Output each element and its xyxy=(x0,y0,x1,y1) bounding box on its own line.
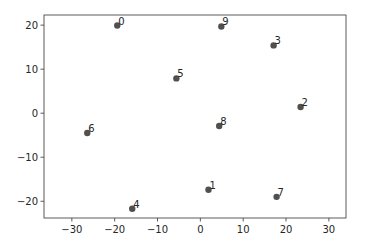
axes-frame xyxy=(44,15,346,218)
point-label: 6 xyxy=(88,123,94,134)
point-label: 3 xyxy=(275,35,281,46)
y-tick-label: −10 xyxy=(17,152,38,163)
point-label: 9 xyxy=(222,16,228,27)
point-label: 5 xyxy=(177,68,183,79)
plot-area xyxy=(44,15,346,218)
x-tick-label: 30 xyxy=(322,224,335,235)
scatter-chart: −30−20−100102030 −20−1001020 0123456789 xyxy=(0,0,366,249)
x-tick-label: −20 xyxy=(104,224,125,235)
x-tick-label: 20 xyxy=(280,224,293,235)
y-axis: −20−1001020 xyxy=(17,20,44,207)
x-tick-label: −10 xyxy=(147,224,168,235)
y-tick-label: 10 xyxy=(25,64,38,75)
x-tick-label: 0 xyxy=(197,224,203,235)
x-axis: −30−20−100102030 xyxy=(61,218,335,235)
y-tick-label: −20 xyxy=(17,196,38,207)
x-tick-label: −30 xyxy=(61,224,82,235)
data-points: 0123456789 xyxy=(84,16,308,212)
point-label: 8 xyxy=(220,116,226,127)
point-label: 1 xyxy=(209,180,215,191)
y-tick-label: 0 xyxy=(32,108,38,119)
point-label: 4 xyxy=(133,199,139,210)
y-tick-label: 20 xyxy=(25,20,38,31)
point-label: 0 xyxy=(118,16,124,27)
point-label: 2 xyxy=(302,97,308,108)
point-label: 7 xyxy=(278,187,284,198)
x-tick-label: 10 xyxy=(237,224,250,235)
